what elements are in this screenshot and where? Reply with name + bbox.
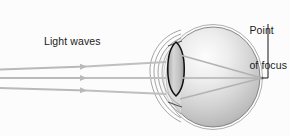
label-point-of-focus: Point of focus [249,2,287,94]
label-point-of-focus-line-1: Point [249,25,287,37]
ray-bottom [0,88,86,91]
eye-illustration [0,0,290,136]
label-point-of-focus-line-2: of focus [249,60,287,72]
label-light-waves: Light waves [44,36,101,48]
eye-diagram: Light waves Point of focus [0,0,290,136]
ray-top [0,67,86,70]
incoming-light-rays [0,62,166,94]
lens [168,42,185,96]
